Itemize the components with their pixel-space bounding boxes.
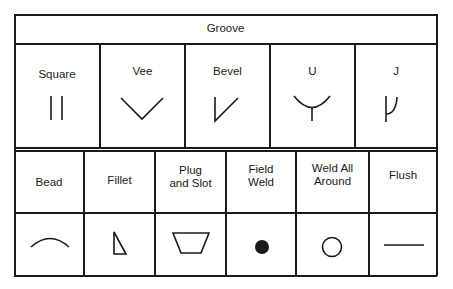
section-separator-top xyxy=(14,147,437,149)
weld-all-around-icon xyxy=(321,236,343,258)
groove-label-u: U xyxy=(270,65,355,78)
border-left xyxy=(14,14,16,276)
groove-col-divider xyxy=(184,43,186,148)
groove-label-vee: Vee xyxy=(100,65,185,78)
label-flush: Flush xyxy=(369,169,437,182)
groove-header: Groove xyxy=(14,22,437,35)
border-right xyxy=(436,14,438,276)
groove-col-divider xyxy=(354,43,356,148)
border-top xyxy=(14,14,437,16)
label-fillet: Fillet xyxy=(84,174,155,187)
vee-groove-icon xyxy=(120,97,164,121)
label-plug-and-slot: Plug and Slot xyxy=(155,164,226,190)
label-field-weld: Field Weld xyxy=(226,163,296,189)
field-weld-icon xyxy=(254,239,270,255)
u-groove-icon xyxy=(293,95,331,121)
groove-header-divider xyxy=(14,43,437,45)
groove-label-bevel: Bevel xyxy=(185,65,270,78)
bevel-groove-icon xyxy=(213,96,239,122)
groove-label-j: J xyxy=(355,65,437,78)
label-bead: Bead xyxy=(14,176,84,189)
other-col-divider xyxy=(83,150,85,276)
label-weld-all-around: Weld All Around xyxy=(296,162,369,188)
plug-and-slot-icon xyxy=(172,232,210,254)
weld-symbols-table: Groove Square Vee Bevel U J Bead Fille xyxy=(14,14,437,276)
fillet-icon xyxy=(112,231,128,255)
groove-label-square: Square xyxy=(14,68,100,81)
square-groove-icon xyxy=(48,96,66,120)
flush-icon xyxy=(384,243,424,247)
groove-col-divider xyxy=(99,43,101,148)
j-groove-icon xyxy=(384,96,400,122)
bead-icon xyxy=(30,236,70,248)
groove-col-divider xyxy=(269,43,271,148)
